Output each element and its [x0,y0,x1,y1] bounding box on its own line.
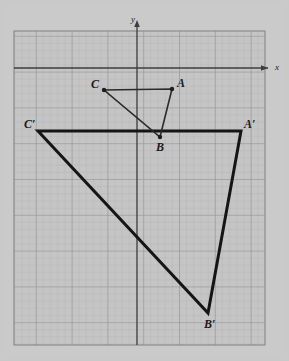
vertex-label-c: C [91,78,99,90]
vertex-point-c [102,88,106,92]
grid-area [14,31,265,345]
vertex-label-c-prime: C′ [24,118,35,130]
geometry-figure: x y A B C A′ B′ C′ [0,0,289,361]
grid-lines [14,31,265,345]
vertex-label-b: B [156,141,164,153]
vertex-point-b [158,135,162,139]
x-axis-label: x [275,63,279,72]
vertex-point-a [170,87,174,91]
figure-canvas [0,0,289,361]
vertex-label-b-prime: B′ [204,318,215,330]
y-axis-label: y [131,15,135,24]
vertex-label-a-prime: A′ [244,118,255,130]
vertex-label-a: A [177,77,185,89]
